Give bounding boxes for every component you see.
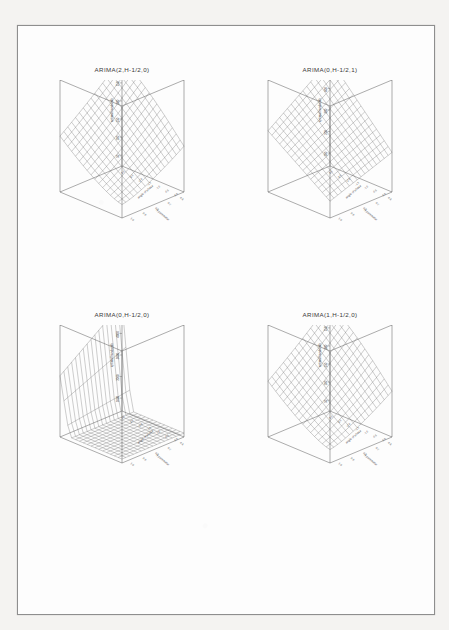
svg-text:0.0: 0.0 <box>381 437 387 443</box>
svg-text:-2.0: -2.0 <box>137 422 144 428</box>
svg-text:200: 200 <box>116 99 120 104</box>
svg-text:-2.5: -2.5 <box>128 173 135 179</box>
svg-text:-3.0: -3.0 <box>119 169 126 175</box>
svg-text:0.0: 0.0 <box>173 437 179 443</box>
svg-text:0.9: 0.9 <box>350 211 356 217</box>
svg-text:H parameter: H parameter <box>155 208 170 222</box>
svg-text:0.6: 0.6 <box>387 441 393 447</box>
surface-plot-arima-1-0: 50100150200250300optimal bandwidth-3.0-2… <box>226 325 434 565</box>
svg-text:optimal bandwidth: optimal bandwidth <box>318 343 322 368</box>
surface-plot-arima-2-0: 50100150200250300optimal bandwidth-3.0-2… <box>18 80 226 320</box>
svg-text:4000: 4000 <box>116 331 120 338</box>
svg-text:50: 50 <box>324 399 328 403</box>
svg-text:-2.5: -2.5 <box>336 418 343 424</box>
svg-text:1.0: 1.0 <box>338 462 344 468</box>
svg-text:150: 150 <box>116 117 120 122</box>
svg-text:3000: 3000 <box>116 352 120 359</box>
scanned-page-background: ARIMA(2,H-1/2,0) 50100150200250300optima… <box>0 0 449 630</box>
plot-title: ARIMA(0,H-1/2,0) <box>18 311 226 318</box>
svg-text:0.9: 0.9 <box>142 456 148 462</box>
plot-panel-arima-1-0: ARIMA(1,H-1/2,0) 50100150200250300optima… <box>226 311 434 571</box>
svg-text:300: 300 <box>324 108 328 113</box>
svg-text:-3.0: -3.0 <box>327 414 334 420</box>
svg-text:100: 100 <box>324 380 328 385</box>
svg-text:2000: 2000 <box>116 374 120 381</box>
svg-text:-0.5: -0.5 <box>372 433 379 439</box>
svg-text:-3.0: -3.0 <box>119 414 126 420</box>
svg-text:-2.0: -2.0 <box>345 177 352 183</box>
svg-text:-1.0: -1.0 <box>155 184 162 190</box>
svg-text:H parameter: H parameter <box>363 453 378 467</box>
svg-text:-3.0: -3.0 <box>327 169 334 175</box>
svg-text:0.9: 0.9 <box>142 211 148 217</box>
svg-text:angle of phase: angle of phase <box>345 184 363 200</box>
svg-text:-0.5: -0.5 <box>164 188 171 194</box>
svg-text:0.0: 0.0 <box>381 192 387 198</box>
svg-text:50: 50 <box>116 154 120 158</box>
svg-text:1000: 1000 <box>116 395 120 402</box>
svg-text:-2.5: -2.5 <box>128 418 135 424</box>
svg-text:250: 250 <box>324 326 328 331</box>
svg-text:200: 200 <box>324 344 328 349</box>
plot-title: ARIMA(0,H-1/2,1) <box>226 66 434 73</box>
figure-sheet: ARIMA(2,H-1/2,0) 50100150200250300optima… <box>17 25 435 615</box>
svg-text:0.7: 0.7 <box>167 201 173 207</box>
plot-title: ARIMA(1,H-1/2,0) <box>226 311 434 318</box>
svg-text:0.0: 0.0 <box>173 192 179 198</box>
svg-text:0.7: 0.7 <box>167 446 173 452</box>
plot-panel-arima-0-0: ARIMA(0,H-1/2,0) 10002000300040005000opt… <box>18 311 226 571</box>
surface-plot-arima-0-1: 100200300400500optimal bandwidth-3.0-2.5… <box>226 80 434 320</box>
svg-text:0.6: 0.6 <box>387 196 393 202</box>
svg-text:0.6: 0.6 <box>179 441 185 447</box>
surface-plot-arima-0-0: 10002000300040005000optimal bandwidth-3.… <box>18 325 226 565</box>
svg-text:-1.0: -1.0 <box>363 184 370 190</box>
svg-text:H parameter: H parameter <box>363 208 378 222</box>
svg-text:-0.5: -0.5 <box>372 188 379 194</box>
plot-title: ARIMA(2,H-1/2,0) <box>18 66 226 73</box>
svg-text:200: 200 <box>324 130 328 135</box>
svg-text:optimal bandwidth: optimal bandwidth <box>318 98 322 123</box>
svg-text:400: 400 <box>324 87 328 92</box>
svg-text:1.0: 1.0 <box>338 217 344 223</box>
svg-text:-1.0: -1.0 <box>363 429 370 435</box>
svg-text:0.7: 0.7 <box>375 201 381 207</box>
svg-text:0.7: 0.7 <box>375 446 381 452</box>
svg-text:250: 250 <box>116 81 120 86</box>
svg-text:1.0: 1.0 <box>130 462 136 468</box>
svg-text:-0.5: -0.5 <box>164 433 171 439</box>
svg-text:1.0: 1.0 <box>130 217 136 223</box>
svg-text:-2.5: -2.5 <box>336 173 343 179</box>
svg-text:optimal bandwidth: optimal bandwidth <box>110 343 114 368</box>
svg-text:100: 100 <box>116 135 120 140</box>
svg-text:100: 100 <box>324 151 328 156</box>
svg-text:150: 150 <box>324 362 328 367</box>
plot-panel-arima-2-0: ARIMA(2,H-1/2,0) 50100150200250300optima… <box>18 66 226 326</box>
plot-panel-arima-0-1: ARIMA(0,H-1/2,1) 100200300400500optimal … <box>226 66 434 326</box>
svg-text:0.6: 0.6 <box>179 196 185 202</box>
svg-text:0.9: 0.9 <box>350 456 356 462</box>
svg-text:H parameter: H parameter <box>155 453 170 467</box>
svg-text:optimal bandwidth: optimal bandwidth <box>110 98 114 123</box>
